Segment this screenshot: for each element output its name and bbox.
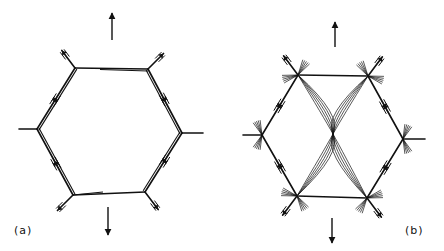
panel-b-label: (b) <box>405 224 424 237</box>
hexagon-edge <box>298 75 368 76</box>
panel-b-hexagon <box>243 22 425 243</box>
hexagon-diagram <box>0 0 444 251</box>
ray-fan-icon <box>253 120 262 135</box>
ray-fan-icon <box>355 198 367 213</box>
hexagon-edge <box>297 196 367 198</box>
ray-fan-icon <box>403 124 412 139</box>
panel-a-hexagon <box>19 13 203 235</box>
crossing-fan-lines <box>297 75 368 198</box>
ray-fan-icon <box>356 61 368 76</box>
ray-fan-icon <box>253 135 262 150</box>
hexagon-edge <box>75 68 148 69</box>
ray-fan-icon <box>297 196 309 211</box>
ray-fan-icon <box>298 60 310 75</box>
hexagon-edge-inner <box>100 70 148 72</box>
ray-fan-icon <box>403 139 412 154</box>
panel-a-label: (a) <box>14 224 32 237</box>
